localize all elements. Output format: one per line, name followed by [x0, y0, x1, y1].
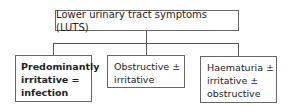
connector-left-down [53, 43, 54, 55]
child-node-obstructive: Obstructive ± irritative [107, 55, 185, 88]
child-node-haematuria: Haematuria ± irritative ± obstructive [200, 56, 277, 103]
node-text-line: obstructive [207, 87, 276, 100]
connector-middle-down [146, 43, 147, 55]
node-text-line: Predominantly [21, 60, 91, 73]
node-text-line: Haematuria ± [207, 61, 276, 74]
node-text-line: irritative = [21, 73, 91, 86]
root-node-luts: Lower urinary tract symptoms (LUTS) [55, 10, 239, 31]
node-text-line: infection [21, 86, 91, 99]
connector-right-down [238, 43, 239, 56]
node-text-line: irritative ± [207, 74, 276, 87]
root-node-label: Lower urinary tract symptoms (LUTS) [56, 8, 238, 34]
connector-root-down [146, 31, 147, 43]
node-text-line: irritative [114, 73, 184, 86]
node-text-line: Obstructive ± [114, 60, 184, 73]
child-node-irritative-infection: Predominantly irritative = infection [15, 55, 92, 102]
